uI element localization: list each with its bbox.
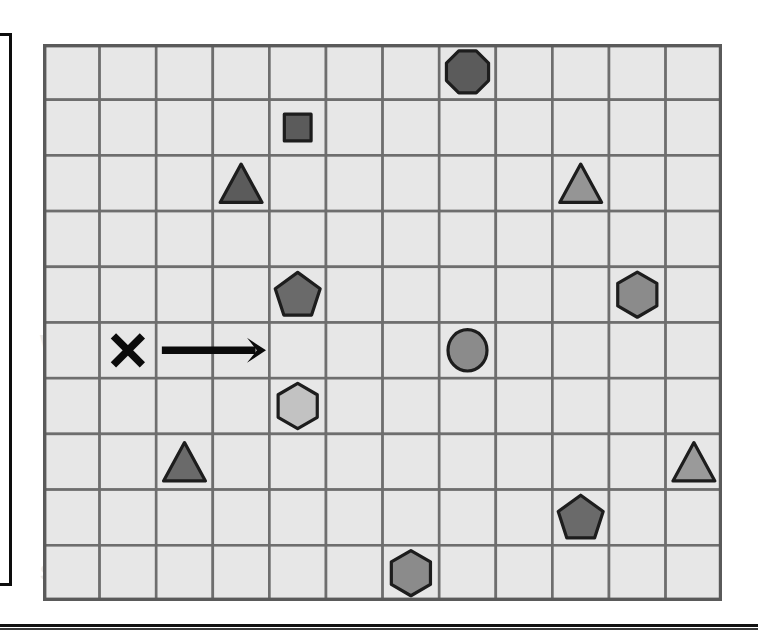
grid-cell-c9-r6[interactable] — [496, 323, 553, 379]
circle-icon[interactable] — [448, 330, 487, 371]
grid-cell-c7-r1[interactable] — [383, 44, 440, 100]
grid-cell-c12-r6[interactable] — [666, 323, 722, 379]
grid-cell-c4-r9[interactable] — [213, 490, 270, 546]
grid-cell-c8-r2[interactable] — [439, 100, 496, 156]
grid-cell-c4-r2[interactable] — [213, 100, 270, 156]
shape-hexagon-c7-r10[interactable] — [391, 551, 430, 596]
grid-cell-c7-r4[interactable] — [383, 211, 440, 267]
grid-cell-c7-r6[interactable] — [383, 323, 440, 379]
shape-octagon-c8-r1[interactable] — [446, 51, 488, 93]
grid-cell-c7-r8[interactable] — [383, 434, 440, 490]
grid-cell-c4-r4[interactable] — [213, 211, 270, 267]
grid-cell-c8-r4[interactable] — [439, 211, 496, 267]
grid-cell-c9-r2[interactable] — [496, 100, 553, 156]
grid-cell-c7-r2[interactable] — [383, 100, 440, 156]
grid-cell-c3-r1[interactable] — [156, 44, 213, 100]
grid-cell-c6-r1[interactable] — [326, 44, 383, 100]
grid-cell-c2-r5[interactable] — [100, 267, 157, 323]
grid-cell-c5-r9[interactable] — [269, 490, 326, 546]
grid-cell-c12-r1[interactable] — [666, 44, 722, 100]
grid-cell-c10-r10[interactable] — [552, 545, 609, 601]
grid-cell-c8-r5[interactable] — [439, 267, 496, 323]
grid-cell-c12-r9[interactable] — [666, 490, 722, 546]
grid-cell-c2-r8[interactable] — [100, 434, 157, 490]
grid-cell-c4-r7[interactable] — [213, 378, 270, 434]
shape-grid[interactable] — [43, 44, 722, 601]
grid-cell-c2-r3[interactable] — [100, 155, 157, 211]
grid-cell-c11-r2[interactable] — [609, 100, 666, 156]
grid-cell-c7-r5[interactable] — [383, 267, 440, 323]
grid-cell-c5-r10[interactable] — [269, 545, 326, 601]
grid-cell-c8-r8[interactable] — [439, 434, 496, 490]
grid-cell-c9-r5[interactable] — [496, 267, 553, 323]
grid-cell-c10-r8[interactable] — [552, 434, 609, 490]
grid-cell-c12-r3[interactable] — [666, 155, 722, 211]
grid-cell-c1-r3[interactable] — [43, 155, 100, 211]
grid-cell-c3-r10[interactable] — [156, 545, 213, 601]
grid-cell-c1-r2[interactable] — [43, 100, 100, 156]
grid-cell-c1-r1[interactable] — [43, 44, 100, 100]
grid-cell-c4-r10[interactable] — [213, 545, 270, 601]
grid-cell-c4-r1[interactable] — [213, 44, 270, 100]
grid-cell-c11-r9[interactable] — [609, 490, 666, 546]
grid-cell-c11-r6[interactable] — [609, 323, 666, 379]
grid-cell-c12-r10[interactable] — [666, 545, 722, 601]
grid-cell-c9-r8[interactable] — [496, 434, 553, 490]
grid-cell-c3-r3[interactable] — [156, 155, 213, 211]
grid-cell-c5-r8[interactable] — [269, 434, 326, 490]
grid-cell-c4-r5[interactable] — [213, 267, 270, 323]
grid-cell-c1-r6[interactable] — [43, 323, 100, 379]
square-icon[interactable] — [284, 114, 311, 141]
grid-cell-c2-r2[interactable] — [100, 100, 157, 156]
grid-cell-c7-r7[interactable] — [383, 378, 440, 434]
grid-cell-c6-r4[interactable] — [326, 211, 383, 267]
grid-cell-c6-r10[interactable] — [326, 545, 383, 601]
shape-grid-canvas[interactable] — [43, 44, 722, 601]
grid-cell-c11-r4[interactable] — [609, 211, 666, 267]
grid-cell-c11-r8[interactable] — [609, 434, 666, 490]
grid-cell-c12-r5[interactable] — [666, 267, 722, 323]
grid-cell-c5-r6[interactable] — [269, 323, 326, 379]
octagon-icon[interactable] — [446, 51, 488, 93]
grid-cell-c11-r1[interactable] — [609, 44, 666, 100]
grid-cell-c9-r4[interactable] — [496, 211, 553, 267]
grid-cell-c10-r2[interactable] — [552, 100, 609, 156]
grid-cell-c3-r5[interactable] — [156, 267, 213, 323]
grid-cell-c1-r8[interactable] — [43, 434, 100, 490]
grid-cell-c9-r10[interactable] — [496, 545, 553, 601]
grid-cell-c10-r4[interactable] — [552, 211, 609, 267]
grid-cell-c12-r7[interactable] — [666, 378, 722, 434]
grid-cell-c5-r4[interactable] — [269, 211, 326, 267]
grid-cell-c6-r2[interactable] — [326, 100, 383, 156]
grid-cell-c6-r7[interactable] — [326, 378, 383, 434]
grid-cell-c1-r7[interactable] — [43, 378, 100, 434]
grid-cell-c8-r10[interactable] — [439, 545, 496, 601]
grid-cell-c1-r5[interactable] — [43, 267, 100, 323]
grid-cell-c10-r6[interactable] — [552, 323, 609, 379]
grid-cell-c11-r3[interactable] — [609, 155, 666, 211]
hexagon-icon[interactable] — [278, 383, 317, 428]
grid-cell-c7-r3[interactable] — [383, 155, 440, 211]
grid-cell-c6-r9[interactable] — [326, 490, 383, 546]
grid-cell-c1-r9[interactable] — [43, 490, 100, 546]
grid-cell-c2-r1[interactable] — [100, 44, 157, 100]
grid-cell-c12-r4[interactable] — [666, 211, 722, 267]
hexagon-icon[interactable] — [391, 551, 430, 596]
grid-cell-c6-r6[interactable] — [326, 323, 383, 379]
shape-circle-c8-r6[interactable] — [448, 330, 487, 371]
grid-cell-c4-r8[interactable] — [213, 434, 270, 490]
shape-hexagon-c5-r7[interactable] — [278, 383, 317, 428]
grid-cell-c3-r7[interactable] — [156, 378, 213, 434]
grid-cell-c1-r10[interactable] — [43, 545, 100, 601]
grid-cell-c9-r3[interactable] — [496, 155, 553, 211]
grid-cell-c10-r5[interactable] — [552, 267, 609, 323]
grid-cell-c2-r4[interactable] — [100, 211, 157, 267]
grid-cell-c6-r8[interactable] — [326, 434, 383, 490]
grid-cell-c9-r1[interactable] — [496, 44, 553, 100]
grid-cell-c8-r9[interactable] — [439, 490, 496, 546]
grid-cell-c9-r7[interactable] — [496, 378, 553, 434]
grid-cell-c10-r1[interactable] — [552, 44, 609, 100]
grid-cell-c6-r3[interactable] — [326, 155, 383, 211]
grid-cell-c3-r9[interactable] — [156, 490, 213, 546]
grid-cell-c1-r4[interactable] — [43, 211, 100, 267]
